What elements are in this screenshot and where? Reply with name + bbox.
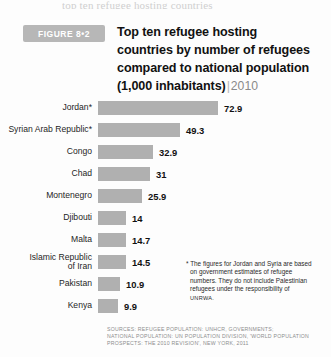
sources-line-1: SOURCES: REFUGEE POPULATION: UNHCR, GOVE…: [107, 326, 327, 333]
bar-syrian-arab-republic: [98, 123, 180, 137]
page-title-line-4: (1,000 inhabitants): [117, 79, 226, 93]
bar-islamic-republic-of-iran: [98, 255, 126, 269]
table-row: Chad 31: [0, 163, 331, 185]
figure-header: FIGURE 8•2 Top ten refugee hosting count…: [0, 22, 331, 92]
bar-area: 32.9: [98, 141, 331, 163]
table-row: Malta 14.7: [0, 229, 331, 251]
bar-label: Chad: [0, 169, 98, 179]
bar-value: 31: [156, 169, 166, 180]
bar-congo: [98, 145, 153, 159]
bar-value: 10.9: [126, 279, 144, 290]
page-top-cut-text: top ten refugee hosting countries: [62, 0, 277, 9]
footnote-line-3: numbers. They do not include Palestinian: [186, 277, 326, 285]
bar-malta: [98, 233, 126, 247]
bar-label: Malta: [0, 235, 98, 245]
bar-value: 25.9: [148, 191, 166, 202]
bar-label: Kenya: [0, 301, 98, 311]
page-title-line-2: countries by number of refugees: [117, 43, 310, 57]
bar-label: Jordan*: [0, 103, 98, 113]
bar-area: 25.9: [98, 185, 331, 207]
bar-djibouti: [98, 211, 126, 225]
bar-value: 14.7: [132, 235, 150, 246]
bar-label: Islamic Republicof Iran: [0, 253, 98, 272]
bar-label: Djibouti: [0, 213, 98, 223]
bar-montenegro: [98, 189, 142, 203]
bar-area: 49.3: [98, 119, 331, 141]
bar-area: 72.9: [98, 97, 331, 119]
bar-area: 14.7: [98, 229, 331, 251]
bar-value: 14: [132, 213, 142, 224]
figure-title-block: Top ten refugee hosting countries by num…: [117, 22, 327, 94]
figure-page: top ten refugee hosting countries FIGURE…: [0, 0, 331, 357]
page-title-line-1: Top ten refugee hosting: [117, 25, 257, 39]
figure-footnote: * The figures for Jordan and Syria are b…: [186, 260, 326, 302]
bar-chad: [98, 167, 150, 181]
sources-line-3: PROSPECTS: THE 2010 REVISION', NEW YORK,…: [107, 340, 327, 347]
bar-pakistan: [98, 277, 120, 291]
table-row: Congo 32.9: [0, 141, 331, 163]
footnote-line-5: UNRWA.: [186, 294, 326, 302]
sources-line-2: NATIONAL POPULATION: UN POPULATION DIVIS…: [107, 333, 327, 340]
footnote-line-1: * The figures for Jordan and Syria are b…: [186, 260, 326, 268]
title-year: 2010: [231, 79, 258, 93]
table-row: Montenegro 25.9: [0, 185, 331, 207]
bar-area: 31: [98, 163, 331, 185]
bar-label-line-2: of Iran: [68, 261, 92, 271]
bar-value: 32.9: [159, 147, 177, 158]
bar-area: 14: [98, 207, 331, 229]
bar-value: 9.9: [124, 301, 137, 312]
table-row: Jordan* 72.9: [0, 97, 331, 119]
bar-label: Congo: [0, 147, 98, 157]
bar-value: 49.3: [186, 125, 204, 136]
figure-sources: SOURCES: REFUGEE POPULATION: UNHCR, GOVE…: [107, 326, 327, 347]
footnote-line-2: on government estimates of refugee: [186, 268, 326, 276]
bar-jordan: [98, 101, 218, 115]
bar-label: Montenegro: [0, 191, 98, 201]
page-title-line-3: compared to national population: [117, 61, 309, 75]
bar-kenya: [98, 299, 118, 313]
table-row: Djibouti 14: [0, 207, 331, 229]
table-row: Syrian Arab Republic* 49.3: [0, 119, 331, 141]
figure-number-badge: FIGURE 8•2: [23, 25, 105, 42]
bar-value: 14.5: [132, 257, 150, 268]
bar-label: Pakistan: [0, 279, 98, 289]
bar-value: 72.9: [224, 103, 242, 114]
footnote-line-4: refugees under the responsibility of: [186, 285, 326, 293]
bar-label: Syrian Arab Republic*: [0, 125, 98, 135]
